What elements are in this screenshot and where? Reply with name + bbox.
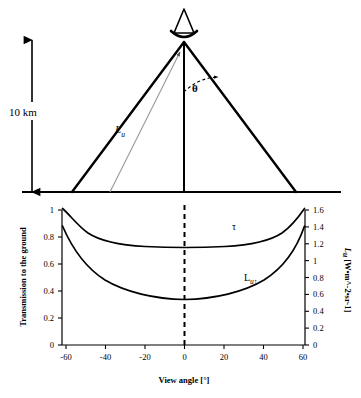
y-tick-label: 0 (50, 340, 54, 350)
y2-tick-label: 1.6 (313, 205, 324, 215)
y-tick-label: 0.2 (43, 313, 54, 323)
view-angle-label: θ (192, 82, 198, 94)
chart-plot: 1 0.8 0.6 0.4 0.2 0 1.6 1.4 1.2 1 0. (18, 205, 353, 385)
y2-tick-label: 0 (313, 340, 317, 350)
x-tick-label: -60 (60, 352, 71, 362)
x-tick-label: -40 (100, 352, 111, 362)
y2-tick-label: 0.2 (313, 323, 324, 333)
y-tick-label: 1 (50, 205, 54, 215)
figure-svg: Lu θ 10 km (0, 0, 361, 398)
x-tick-label: 60 (299, 352, 308, 362)
y2-tick-label: 0.4 (313, 306, 324, 316)
y2-tick-label: 1.4 (313, 222, 324, 232)
y2-tick-label: 1.2 (313, 239, 324, 249)
satellite-sensor-icon (171, 9, 197, 37)
y-tick-label: 0.4 (43, 286, 54, 296)
cone-ray-right (184, 42, 296, 192)
diagram-radiance-label: Lu (114, 123, 125, 139)
y2-tick-label: 0.6 (313, 289, 324, 299)
y-tick-label: 0.8 (43, 232, 54, 242)
x-tick-label: 0 (182, 352, 186, 362)
altitude-label: 10 km (9, 106, 37, 118)
y-axis-title: Transmission to the ground (18, 227, 28, 327)
x-tick-label: -20 (139, 352, 150, 362)
cone-ray-left (72, 42, 184, 192)
x-tick-label: 20 (220, 352, 229, 362)
x-axis-title: View angle [°] (159, 375, 210, 385)
y2-tick-label: 1 (313, 256, 317, 266)
y2-tick-label: 0.8 (313, 273, 324, 283)
series-label-lu: Lu↑ (244, 272, 258, 286)
geometry-diagram: Lu θ 10 km (6, 9, 341, 192)
upwelling-radiance-ray (110, 52, 180, 192)
y-tick-label: 0.6 (43, 259, 54, 269)
figure-container: Lu θ 10 km (0, 0, 361, 398)
y2-axis-title: Lu [W•m^-2•sr-1] (341, 247, 354, 313)
x-tick-label: 40 (259, 352, 268, 362)
series-label-tau: τ (232, 221, 236, 232)
